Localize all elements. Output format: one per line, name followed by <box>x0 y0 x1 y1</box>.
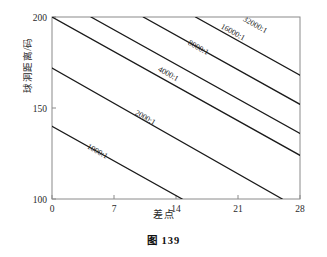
y-axis-label: 球洞距离/码 <box>20 10 34 120</box>
y-tick-label: 100 <box>33 195 48 205</box>
contour-label: 2000:1 <box>133 108 157 127</box>
plot-frame <box>52 17 300 199</box>
contour-label: 1000:1 <box>86 142 110 161</box>
contour-lines: 1000:12000:14000:18000:116000:132000:1 <box>52 15 300 199</box>
contour-line <box>52 126 182 199</box>
figure-root: 071421281001502001000:12000:14000:18000:… <box>0 0 327 257</box>
contour-label: 32000:1 <box>242 15 269 36</box>
y-tick-label: 200 <box>33 13 48 23</box>
contour-line <box>91 17 300 133</box>
contour-line <box>52 68 282 199</box>
y-tick-label: 150 <box>33 104 48 114</box>
contour-line <box>52 17 300 155</box>
chart-figure: 071421281001502001000:12000:14000:18000:… <box>0 0 327 224</box>
contour-label: 4000:1 <box>156 65 180 84</box>
contour-plot: 071421281001502001000:12000:14000:18000:… <box>0 0 327 224</box>
figure-caption: 图 139 <box>0 232 327 247</box>
x-axis-label: 差点 <box>0 206 327 221</box>
